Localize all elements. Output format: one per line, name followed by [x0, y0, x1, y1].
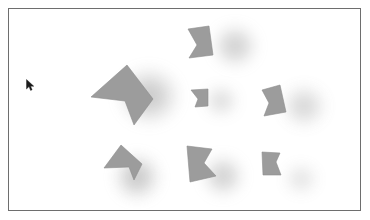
crown-right-middle[interactable]: [262, 85, 286, 116]
dart-bottom-right[interactable]: [262, 152, 281, 175]
dart-bottom-right-shadow: [283, 162, 319, 196]
crown-right-middle-shadow: [280, 83, 328, 129]
shape-layer: [9, 9, 360, 210]
shadow-group: [112, 23, 328, 202]
dart-center-small-shadow: [203, 84, 239, 118]
crown-top-center-shadow: [211, 23, 259, 69]
dart-center-small[interactable]: [191, 89, 208, 107]
canvas-frame[interactable]: [8, 8, 361, 211]
crown-top-center[interactable]: [188, 26, 213, 58]
mouse-pointer-icon: [26, 79, 35, 91]
shape-canvas-app: [0, 0, 370, 220]
